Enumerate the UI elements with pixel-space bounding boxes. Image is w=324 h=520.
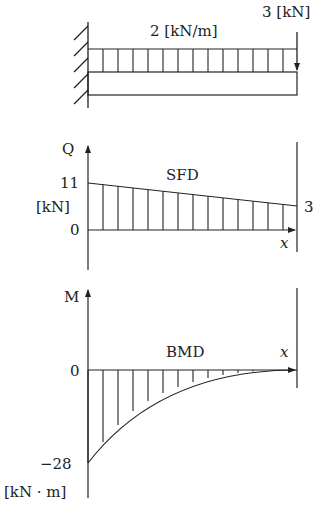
sfd-zero-label: 0	[70, 223, 80, 238]
sfd-title: SFD	[166, 168, 199, 183]
bmd-zero-label: 0	[70, 364, 80, 379]
bmd-unit-label: [kN · m]	[4, 485, 66, 500]
beam-body	[88, 72, 297, 95]
bmd-x-axis-label: x	[280, 345, 288, 360]
sfd-right-value: 3	[304, 200, 314, 215]
bmd-min-value: −28	[40, 457, 72, 472]
diagram-canvas	[0, 0, 324, 520]
sfd-x-axis-label: x	[280, 236, 288, 251]
bmd-axes	[88, 288, 297, 498]
sfd-unit-label: [kN]	[36, 200, 70, 215]
distributed-load	[88, 49, 297, 72]
sfd-left-value: 11	[60, 176, 79, 191]
sfd-y-axis-label: Q	[62, 142, 74, 157]
fixed-wall-support	[74, 22, 88, 108]
bmd-y-axis-label: M	[64, 290, 79, 305]
bmd-title: BMD	[166, 345, 204, 360]
point-load-label: 3 [kN]	[262, 5, 310, 20]
bmd-curve	[88, 370, 297, 463]
sfd-curve	[88, 183, 297, 230]
distributed-load-label: 2 [kN/m]	[150, 24, 218, 39]
